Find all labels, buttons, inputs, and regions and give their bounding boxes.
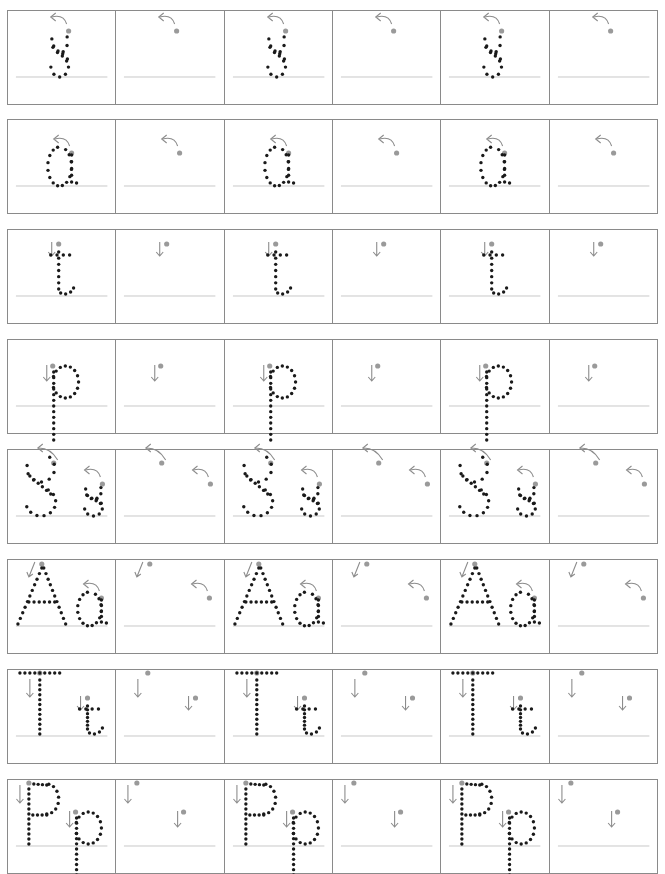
trace-cell[interactable]	[225, 560, 333, 653]
down-arrow-icon	[174, 811, 181, 827]
trace-cell[interactable]	[225, 120, 333, 213]
trace-cell[interactable]	[441, 560, 549, 653]
write-cell[interactable]	[116, 11, 224, 104]
start-guides	[568, 670, 632, 710]
write-cell[interactable]	[550, 340, 657, 433]
down-arrow-icon	[351, 679, 358, 697]
write-cell[interactable]	[333, 230, 441, 323]
start-dot-icon	[26, 780, 31, 785]
start-dot-icon	[207, 595, 212, 600]
diagonal-arrow-icon	[352, 562, 360, 577]
down-arrow-icon	[43, 365, 50, 381]
start-dot-icon	[193, 695, 198, 700]
dotted-letter-Ss	[242, 444, 322, 518]
down-arrow-icon	[499, 811, 506, 827]
dotted-letter-Pp	[450, 780, 537, 874]
write-cell[interactable]	[550, 450, 657, 543]
trace-cell[interactable]	[8, 780, 116, 873]
write-cell[interactable]	[116, 340, 224, 433]
trace-cell[interactable]	[225, 340, 333, 433]
trace-cell[interactable]	[8, 450, 116, 543]
trace-cell[interactable]	[441, 340, 549, 433]
dotted-letter-Aa	[233, 561, 325, 627]
write-cell[interactable]	[333, 120, 441, 213]
trace-cell[interactable]	[441, 230, 549, 323]
start-dot-icon	[39, 561, 44, 566]
trace-cell[interactable]	[8, 120, 116, 213]
trace-cell[interactable]	[225, 230, 333, 323]
start-guides	[159, 13, 179, 34]
curved-arrow-icon	[580, 448, 599, 460]
write-cell[interactable]	[116, 670, 224, 763]
start-dot-icon	[208, 481, 213, 486]
down-arrow-icon	[373, 242, 380, 256]
write-cell[interactable]	[333, 560, 441, 653]
start-guides	[351, 670, 415, 710]
trace-cell[interactable]	[441, 670, 549, 763]
start-dot-icon	[164, 241, 169, 246]
write-cell[interactable]	[550, 780, 657, 873]
write-cell[interactable]	[333, 780, 441, 873]
down-arrow-icon	[585, 365, 592, 381]
start-dot-icon	[425, 481, 430, 486]
write-cell[interactable]	[116, 450, 224, 543]
dotted-letter-a	[263, 135, 295, 187]
start-dot-icon	[364, 561, 369, 566]
write-cell[interactable]	[116, 120, 224, 213]
write-cell[interactable]	[333, 450, 441, 543]
start-dot-icon	[302, 695, 307, 700]
trace-cell[interactable]	[441, 780, 549, 873]
write-cell[interactable]	[550, 670, 657, 763]
trace-cell[interactable]	[8, 560, 116, 653]
start-dot-icon	[640, 595, 645, 600]
write-cell[interactable]	[116, 780, 224, 873]
dotted-letter-Pp	[16, 780, 103, 874]
dotted-letter-a	[480, 135, 512, 187]
trace-cell[interactable]	[8, 670, 116, 763]
write-cell[interactable]	[550, 11, 657, 104]
start-dot-icon	[273, 241, 278, 246]
start-dot-icon	[351, 780, 356, 785]
start-dot-icon	[381, 241, 386, 246]
start-dot-icon	[611, 150, 616, 155]
start-dot-icon	[424, 595, 429, 600]
tracing-row-p: p	[7, 339, 658, 434]
trace-cell[interactable]	[441, 450, 549, 543]
start-guides	[569, 561, 646, 600]
trace-cell[interactable]	[225, 670, 333, 763]
trace-cell[interactable]	[225, 11, 333, 104]
write-cell[interactable]	[116, 230, 224, 323]
start-dot-icon	[568, 780, 573, 785]
start-guides	[595, 135, 615, 156]
start-dot-icon	[85, 695, 90, 700]
tracing-row-Ss: Ss	[7, 449, 658, 544]
start-dot-icon	[159, 460, 164, 465]
start-dot-icon	[362, 670, 367, 675]
write-cell[interactable]	[333, 340, 441, 433]
start-dot-icon	[181, 809, 186, 814]
start-guides	[368, 363, 380, 381]
trace-cell[interactable]	[8, 11, 116, 104]
start-dot-icon	[283, 28, 288, 33]
write-cell[interactable]	[116, 560, 224, 653]
start-guides	[146, 444, 213, 487]
trace-cell[interactable]	[225, 450, 333, 543]
start-dot-icon	[243, 780, 248, 785]
dotted-letter-s	[266, 13, 288, 79]
trace-cell[interactable]	[225, 780, 333, 873]
write-cell[interactable]	[550, 230, 657, 323]
trace-cell[interactable]	[441, 11, 549, 104]
start-dot-icon	[506, 809, 511, 814]
start-dot-icon	[73, 809, 78, 814]
trace-cell[interactable]	[441, 120, 549, 213]
write-cell[interactable]	[333, 11, 441, 104]
write-cell[interactable]	[550, 120, 657, 213]
write-cell[interactable]	[333, 670, 441, 763]
trace-cell[interactable]	[8, 230, 116, 323]
start-dot-icon	[146, 670, 151, 675]
trace-cell[interactable]	[8, 340, 116, 433]
write-cell[interactable]	[550, 560, 657, 653]
start-guides	[135, 561, 212, 600]
down-arrow-icon	[243, 679, 250, 697]
curved-arrow-icon	[255, 448, 274, 460]
